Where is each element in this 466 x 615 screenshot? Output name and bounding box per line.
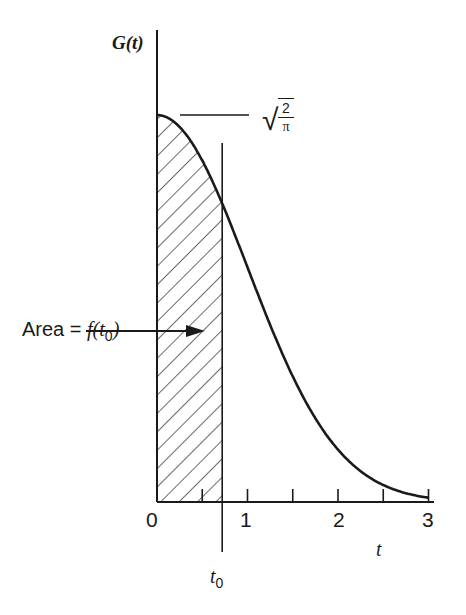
area-function: f(t [87,318,105,340]
sqrt-sign-icon: √ [262,102,278,137]
x-tick-label-0: 0 [146,508,158,532]
shaded-area [157,100,222,502]
sqrt-fraction: 2 π [278,98,294,135]
y-axis-label: G(t) [112,32,144,54]
sqrt-numerator: 2 [278,100,294,118]
t0-subscript: 0 [216,575,224,591]
area-prefix: Area = [22,318,87,340]
x-tick-label-1: 1 [240,508,252,532]
peak-value-label: √ 2 π [262,98,302,148]
chart-canvas [0,0,466,615]
sqrt-denominator: π [278,118,294,135]
x-tick-label-2: 2 [333,508,345,532]
t0-label: t0 [210,565,223,591]
x-axis-label: t [376,538,382,561]
x-tick-label-3: 3 [422,508,434,532]
area-subscript: 0 [105,328,113,344]
area-annotation: Area = f(t0) [22,318,119,344]
area-close: ) [113,318,120,340]
